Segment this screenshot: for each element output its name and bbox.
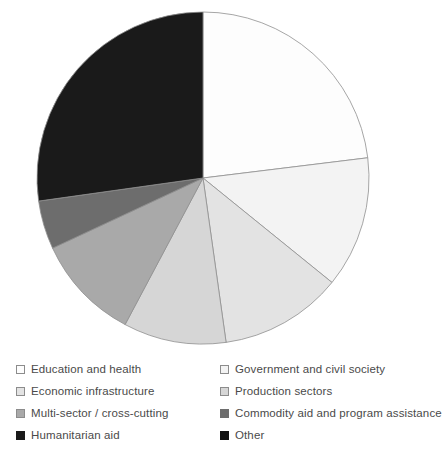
legend-swatch-government-and-civil-society bbox=[220, 365, 229, 374]
legend-grid: Education and healthGovernment and civil… bbox=[16, 358, 432, 446]
pie-chart-svg bbox=[0, 0, 440, 352]
legend-item-multi-sector-cross-cutting[interactable]: Multi-sector / cross-cutting bbox=[16, 406, 216, 420]
legend-label-education-and-health: Education and health bbox=[31, 362, 141, 376]
legend-label-multi-sector-cross-cutting: Multi-sector / cross-cutting bbox=[31, 406, 168, 420]
legend-swatch-commodity-aid-and-program-assistance bbox=[220, 409, 229, 418]
legend-item-education-and-health[interactable]: Education and health bbox=[16, 362, 216, 376]
pie-slice-group bbox=[37, 12, 369, 344]
pie-slice[interactable] bbox=[203, 12, 368, 178]
legend-label-humanitarian-aid: Humanitarian aid bbox=[31, 428, 120, 442]
legend-item-humanitarian-aid[interactable]: Humanitarian aid bbox=[16, 428, 216, 442]
legend-item-economic-infrastructure[interactable]: Economic infrastructure bbox=[16, 384, 216, 398]
legend-item-production-sectors[interactable]: Production sectors bbox=[220, 384, 442, 398]
pie-chart-plot-area bbox=[0, 0, 440, 352]
legend-swatch-multi-sector-cross-cutting bbox=[16, 409, 25, 418]
legend-swatch-other bbox=[220, 431, 229, 440]
pie-slice[interactable] bbox=[37, 12, 203, 201]
legend-label-economic-infrastructure: Economic infrastructure bbox=[31, 384, 154, 398]
legend-label-commodity-aid-and-program-assistance: Commodity aid and program assistance bbox=[235, 406, 442, 420]
legend-swatch-production-sectors bbox=[220, 387, 229, 396]
legend-swatch-education-and-health bbox=[16, 365, 25, 374]
legend-label-government-and-civil-society: Government and civil society bbox=[235, 362, 385, 376]
legend-swatch-economic-infrastructure bbox=[16, 387, 25, 396]
legend-item-government-and-civil-society[interactable]: Government and civil society bbox=[220, 362, 442, 376]
legend-label-other: Other bbox=[235, 428, 264, 442]
legend-item-other[interactable]: Other bbox=[220, 428, 442, 442]
legend-label-production-sectors: Production sectors bbox=[235, 384, 332, 398]
legend-item-commodity-aid-and-program-assistance[interactable]: Commodity aid and program assistance bbox=[220, 406, 442, 420]
chart-legend: Education and healthGovernment and civil… bbox=[0, 352, 440, 458]
legend-swatch-humanitarian-aid bbox=[16, 431, 25, 440]
